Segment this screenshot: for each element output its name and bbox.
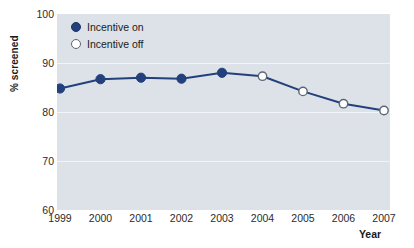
data-point-2000 [96, 75, 105, 84]
y-axis-tick-label: 70 [16, 156, 54, 166]
data-point-2007 [380, 106, 388, 114]
data-point-2004 [258, 72, 266, 80]
data-point-2006 [339, 100, 347, 108]
legend-item-off: Incentive off [71, 37, 144, 51]
x-axis-tick-label: 2007 [364, 212, 404, 224]
legend-item-on: Incentive on [71, 20, 144, 34]
x-axis-title: Year [340, 228, 400, 240]
series-markers [57, 68, 388, 115]
filled-circle-icon [71, 22, 81, 32]
y-axis-tick-labels: 10090807060 [14, 0, 54, 248]
y-axis-tick-label: 80 [16, 107, 54, 117]
x-axis-tick-label: 1999 [40, 212, 80, 224]
legend-item-label: Incentive off [87, 38, 143, 50]
data-point-2005 [299, 87, 307, 95]
x-axis-tick-label: 2006 [324, 212, 364, 224]
y-axis-tick-label: 100 [16, 9, 54, 19]
series-line [60, 73, 384, 111]
legend-item-label: Incentive on [87, 21, 144, 33]
y-axis-tick-label: 90 [16, 58, 54, 68]
data-point-1999 [57, 84, 65, 93]
data-point-2002 [177, 74, 186, 83]
data-point-2003 [217, 68, 226, 77]
x-axis-tick-label: 2001 [121, 212, 161, 224]
chart-figure: % screened 10090807060 Incentive onIncen… [0, 0, 414, 248]
chart-legend: Incentive onIncentive off [71, 20, 144, 51]
x-axis-tick-label: 2004 [243, 212, 283, 224]
x-axis-tick-label: 2002 [162, 212, 202, 224]
x-axis-tick-label: 2003 [202, 212, 242, 224]
hollow-circle-icon [71, 39, 81, 49]
plot-area: Incentive onIncentive off [57, 14, 390, 210]
x-axis-tick-label: 2000 [81, 212, 121, 224]
data-point-2001 [136, 73, 145, 82]
x-axis-tick-label: 2005 [283, 212, 323, 224]
x-axis-tick-labels: 199920002001200220032004200520062007 [57, 212, 390, 226]
